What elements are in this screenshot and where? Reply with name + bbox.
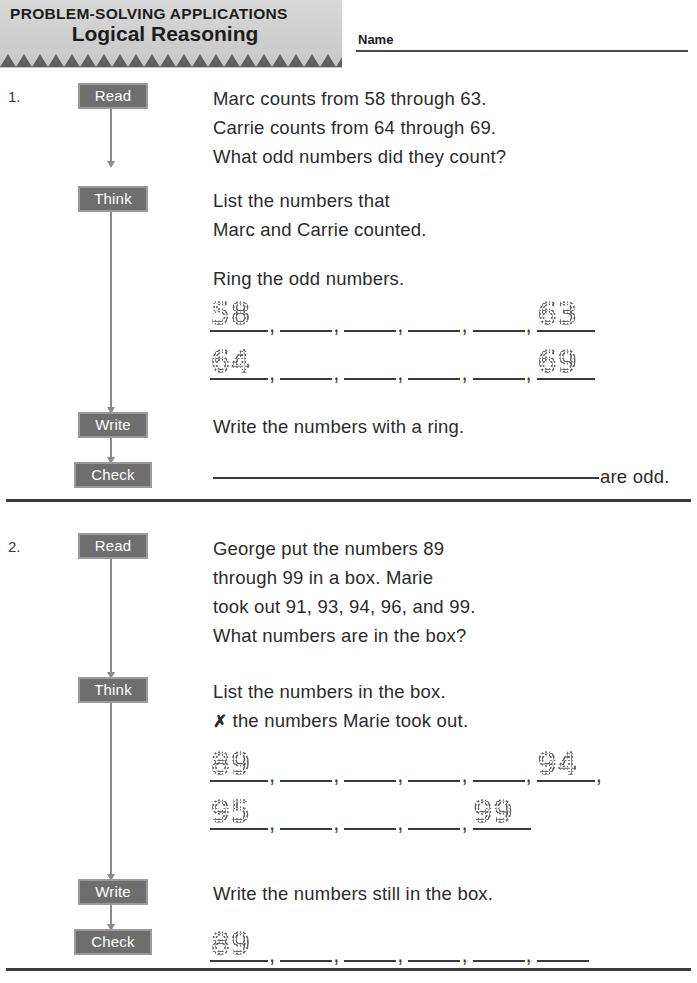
name-input-line[interactable] xyxy=(356,50,688,52)
x-mark-icon: ✗ xyxy=(213,712,227,731)
answer-writing-line[interactable] xyxy=(344,346,396,380)
step-badge-read: Read xyxy=(78,83,148,109)
answer-writing-line[interactable] xyxy=(473,748,525,782)
answer-writing-line[interactable] xyxy=(537,928,589,962)
answer-writing-line[interactable] xyxy=(408,928,460,962)
answer-separator-comma: , xyxy=(268,314,280,336)
answer-writing-line[interactable] xyxy=(408,748,460,782)
triangle-icon xyxy=(160,54,176,67)
triangle-icon xyxy=(336,54,342,67)
answer-slot-filled[interactable]: 94 xyxy=(537,748,595,782)
answer-slot-filled[interactable]: 95 xyxy=(210,796,268,830)
triangle-icon xyxy=(288,54,304,67)
answer-separator-comma: , xyxy=(332,764,344,786)
answer-separator-comma: , xyxy=(268,944,280,966)
traced-number: 63 xyxy=(538,299,578,329)
answer-writing-line[interactable] xyxy=(408,796,460,830)
answer-writing-line[interactable]: 63 xyxy=(537,298,595,332)
flow-arrow-line xyxy=(110,438,112,458)
answer-writing-line[interactable] xyxy=(473,346,525,380)
answer-slot-blank[interactable] xyxy=(344,748,396,782)
problem-read-text: Marc counts from 58 through 63. Carrie c… xyxy=(213,84,506,171)
answer-writing-line[interactable] xyxy=(344,298,396,332)
triangle-icon xyxy=(240,54,256,67)
answer-writing-line[interactable]: 69 xyxy=(537,346,595,380)
name-label: Name xyxy=(358,32,393,47)
answer-slot-filled[interactable]: 58 xyxy=(210,298,268,332)
answer-writing-line[interactable] xyxy=(473,928,525,962)
answer-slot-blank[interactable] xyxy=(473,346,525,380)
problem-number: 1. xyxy=(8,88,21,105)
answer-writing-line[interactable]: 89 xyxy=(210,748,268,782)
answer-writing-line[interactable]: 94 xyxy=(537,748,595,782)
answer-slot-filled[interactable]: 69 xyxy=(537,346,595,380)
answer-separator-comma: , xyxy=(460,764,472,786)
answer-slot-blank[interactable] xyxy=(408,796,460,830)
answer-slot-blank[interactable] xyxy=(344,928,396,962)
answer-slot-blank[interactable] xyxy=(473,298,525,332)
answer-slot-blank[interactable] xyxy=(408,748,460,782)
answer-writing-line[interactable] xyxy=(280,346,332,380)
problem-think-x-text: the numbers Marie took out. xyxy=(227,710,468,731)
answer-slot-blank[interactable] xyxy=(280,346,332,380)
problem-write-text: Write the numbers still in the box. xyxy=(213,879,493,908)
answer-writing-line[interactable] xyxy=(473,298,525,332)
answer-writing-line[interactable] xyxy=(344,928,396,962)
answer-row[interactable]: 64,,,,,69 xyxy=(210,340,595,380)
answer-writing-line[interactable] xyxy=(280,796,332,830)
triangle-icon xyxy=(112,54,128,67)
step-badge-check: Check xyxy=(74,929,152,955)
answer-separator-comma: , xyxy=(396,362,408,384)
answer-separator-comma: , xyxy=(460,314,472,336)
answer-writing-line[interactable] xyxy=(408,346,460,380)
answer-writing-line[interactable]: 89 xyxy=(210,928,268,962)
check-answer-line[interactable] xyxy=(213,477,599,479)
answer-row[interactable]: 58,,,,,63 xyxy=(210,292,595,332)
triangle-icon xyxy=(192,54,208,67)
answer-slot-filled[interactable]: 64 xyxy=(210,346,268,380)
problem-read-text: George put the numbers 89 through 99 in … xyxy=(213,534,476,650)
answer-slot-blank[interactable] xyxy=(537,928,589,962)
answer-writing-line[interactable] xyxy=(280,928,332,962)
traced-number: 89 xyxy=(211,749,251,779)
answer-slot-filled[interactable]: 89 xyxy=(210,748,268,782)
problem-think-x-line: ✗ the numbers Marie took out. xyxy=(213,706,468,736)
answer-separator-comma: , xyxy=(268,362,280,384)
answer-slot-filled[interactable]: 99 xyxy=(473,796,531,830)
answer-separator-comma: , xyxy=(460,362,472,384)
answer-slot-blank[interactable] xyxy=(344,346,396,380)
triangle-icon xyxy=(32,54,48,67)
answer-separator-comma: , xyxy=(460,812,472,834)
answer-writing-line[interactable] xyxy=(280,298,332,332)
answer-slot-blank[interactable] xyxy=(344,298,396,332)
answer-writing-line[interactable]: 58 xyxy=(210,298,268,332)
answer-writing-line[interactable]: 99 xyxy=(473,796,531,830)
triangle-icon xyxy=(144,54,160,67)
answer-writing-line[interactable]: 95 xyxy=(210,796,268,830)
answer-slot-blank[interactable] xyxy=(280,796,332,830)
answer-slot-blank[interactable] xyxy=(280,298,332,332)
answer-row[interactable]: 95,,,,99 xyxy=(210,790,531,830)
answer-writing-line[interactable] xyxy=(280,748,332,782)
answer-slot-blank[interactable] xyxy=(473,928,525,962)
answer-slot-blank[interactable] xyxy=(280,928,332,962)
answer-slot-blank[interactable] xyxy=(408,346,460,380)
step-badge-write: Write xyxy=(78,412,148,438)
flow-arrow-line xyxy=(110,212,112,408)
answer-slot-blank[interactable] xyxy=(408,928,460,962)
answer-writing-line[interactable] xyxy=(344,796,396,830)
check-answer-row[interactable]: 89,,,,, xyxy=(210,922,589,962)
answer-writing-line[interactable] xyxy=(344,748,396,782)
answer-slot-blank[interactable] xyxy=(280,748,332,782)
answer-slot-blank[interactable] xyxy=(344,796,396,830)
answer-slot-filled[interactable]: 89 xyxy=(210,928,268,962)
answer-slot-blank[interactable] xyxy=(473,748,525,782)
answer-writing-line[interactable]: 64 xyxy=(210,346,268,380)
answer-slot-filled[interactable]: 63 xyxy=(537,298,595,332)
answer-row[interactable]: 89,,,,,94, xyxy=(210,742,607,782)
answer-separator-comma: , xyxy=(525,314,537,336)
answer-writing-line[interactable] xyxy=(408,298,460,332)
answer-slot-blank[interactable] xyxy=(408,298,460,332)
triangle-icon xyxy=(272,54,288,67)
step-badge-write: Write xyxy=(78,879,148,905)
